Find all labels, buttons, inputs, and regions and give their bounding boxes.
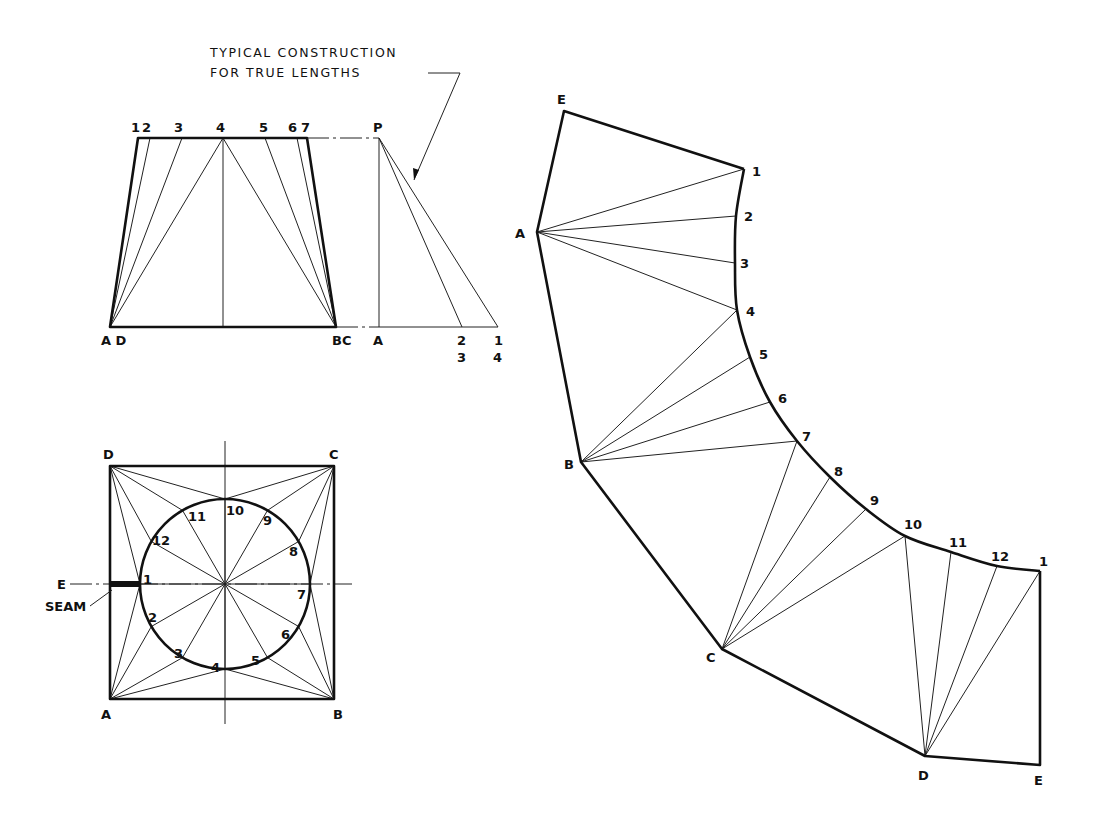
corner-fan-line xyxy=(110,466,140,584)
curve-point-label: 11 xyxy=(949,535,967,550)
true-length-label: 3 xyxy=(457,350,466,365)
corner-label: B xyxy=(333,707,343,722)
corner-fan-line xyxy=(225,669,334,699)
top-point-label: 5 xyxy=(259,120,268,135)
true-length-line xyxy=(379,138,498,327)
development-fan-line xyxy=(925,552,951,756)
curve-point-label: 9 xyxy=(870,493,879,508)
development-fan-line xyxy=(537,216,736,232)
curve-point-label: 12 xyxy=(991,549,1009,564)
true-length-label: 1 xyxy=(494,333,503,348)
corner-fan-line xyxy=(310,584,334,699)
circle-point-label: 5 xyxy=(251,653,260,668)
corner-label: C xyxy=(329,447,339,462)
corner-label: A xyxy=(101,707,111,722)
circle-point-label: 8 xyxy=(289,544,298,559)
pyramid-transition-drawing: TYPICAL CONSTRUCTION FOR TRUE LENGTHS 12… xyxy=(0,0,1102,821)
vertex-label: C xyxy=(706,650,716,665)
corner-fan-line xyxy=(225,466,334,499)
development-fan-line xyxy=(905,536,925,756)
development-pattern: 1234567891011121EABCDE xyxy=(515,92,1048,788)
seam-label: SEAM xyxy=(45,599,86,614)
radial-line xyxy=(225,542,299,585)
vertex-label: E xyxy=(557,92,566,107)
corner-label: D xyxy=(103,447,114,462)
fan-line xyxy=(110,138,182,327)
fan-line xyxy=(265,138,336,327)
top-point-label: 3 xyxy=(174,120,183,135)
annotation-line-1: TYPICAL CONSTRUCTION xyxy=(209,45,397,60)
vertex-label: B xyxy=(564,457,574,472)
leader-line xyxy=(414,73,460,180)
arrowhead-icon xyxy=(413,168,419,180)
development-fan-line xyxy=(925,571,1040,756)
radial-line xyxy=(225,510,268,584)
circle-point-label: 11 xyxy=(188,509,206,524)
vertex-label: D xyxy=(918,768,929,783)
plan-view: DCAB123456789101112ESEAM xyxy=(45,441,352,724)
curve-point-label: 7 xyxy=(802,429,811,444)
development-fan-line xyxy=(581,357,750,462)
development-fan-line xyxy=(722,441,797,649)
seam-e-label: E xyxy=(57,577,66,592)
fan-line xyxy=(223,138,336,327)
circle-point-label: 4 xyxy=(211,660,220,675)
development-fan-line xyxy=(537,232,735,263)
development-fan-line xyxy=(722,509,866,649)
top-point-label: 7 xyxy=(301,120,310,135)
fan-line xyxy=(110,138,223,327)
true-length-annotation: TYPICAL CONSTRUCTION FOR TRUE LENGTHS xyxy=(209,45,460,180)
development-fan-line xyxy=(537,169,744,232)
curve-point-label: 1 xyxy=(1039,554,1048,569)
true-length-label: 2 xyxy=(457,333,466,348)
corner-fan-line xyxy=(110,627,151,700)
radial-line xyxy=(225,584,299,627)
true-length-construction: PA2314 xyxy=(307,120,503,365)
radial-line xyxy=(225,584,268,658)
development-fan-line xyxy=(925,566,997,756)
circle-point-label: 12 xyxy=(152,533,170,548)
curve-point-label: 8 xyxy=(834,464,843,479)
seam-marker xyxy=(110,581,140,587)
true-length-label: 4 xyxy=(493,350,502,365)
fan-line xyxy=(110,138,150,327)
corner-fan-line xyxy=(110,669,225,699)
fan-line xyxy=(297,138,336,327)
vertex-label: A xyxy=(515,226,525,241)
corner-label: A D xyxy=(101,333,127,348)
circle-point-label: 6 xyxy=(281,627,290,642)
corner-fan-line xyxy=(310,466,334,584)
top-point-label: 1 xyxy=(131,120,140,135)
corner-fan-line xyxy=(110,466,183,510)
corner-fan-line xyxy=(110,466,151,542)
curve-point-label: 3 xyxy=(740,256,749,271)
development-fan-line xyxy=(537,232,737,310)
corner-fan-line xyxy=(110,466,225,499)
top-point-label: 2 xyxy=(142,120,151,135)
circle-point-label: 7 xyxy=(297,587,306,602)
development-curve xyxy=(735,169,1040,571)
top-point-label: 6 xyxy=(288,120,297,135)
corner-fan-line xyxy=(110,584,140,699)
circle-point-label: 10 xyxy=(226,503,244,518)
corner-fan-line xyxy=(110,658,183,699)
development-fan-line xyxy=(581,310,737,462)
circle-point-label: 1 xyxy=(143,572,152,587)
true-length-line xyxy=(379,138,462,327)
true-length-label: A xyxy=(373,333,383,348)
annotation-line-2: FOR TRUE LENGTHS xyxy=(210,65,361,80)
front-view: 1234567A DBC xyxy=(101,120,351,348)
development-fan-line xyxy=(722,477,830,649)
circle-point-label: 2 xyxy=(148,610,157,625)
radial-line xyxy=(183,584,226,658)
radial-line xyxy=(151,584,225,627)
development-fan-line xyxy=(722,536,905,649)
vertex-label: E xyxy=(1034,773,1043,788)
circle-point-label: 3 xyxy=(174,646,183,661)
curve-point-label: 5 xyxy=(759,347,768,362)
true-length-label: P xyxy=(373,120,383,135)
curve-point-label: 1 xyxy=(752,164,761,179)
curve-point-label: 6 xyxy=(778,391,787,406)
curve-point-label: 4 xyxy=(746,304,755,319)
corner-label: BC xyxy=(332,333,351,348)
